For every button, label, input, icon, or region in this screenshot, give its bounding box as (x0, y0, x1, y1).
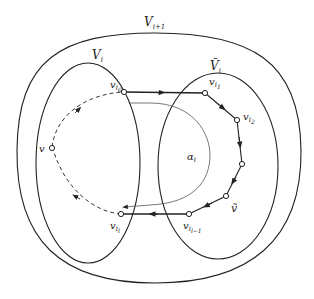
vertex-v (49, 145, 54, 150)
label-vil: vil (110, 220, 120, 234)
label-vi0: vi0 (110, 79, 122, 93)
vertex-vil (118, 211, 123, 216)
dashed-arrow-lower (75, 196, 80, 199)
vertex-vtilde (223, 193, 228, 198)
vertex-vi3 (239, 161, 244, 166)
dashed-path-upper (52, 92, 122, 147)
label-v: v (39, 143, 45, 154)
label-region-right: Ṽi (210, 58, 221, 75)
edge-vi0-vi1 (124, 92, 205, 93)
label-vi1: vi1 (209, 76, 221, 90)
vertex-vi1 (202, 90, 207, 95)
diagram-canvas: Vi+1 Vi Ṽi vi0 vi1 vi2 ṽ vil−1 vil v αi (0, 0, 314, 299)
region-right-boundary (158, 73, 278, 259)
label-region-outer: Vi+1 (144, 15, 165, 31)
label-vil1: vil−1 (183, 220, 202, 234)
region-outer-boundary (17, 33, 301, 283)
edge-arrow-vtilde-vil1 (206, 203, 212, 206)
edge-arrow-vi2-vi3 (239, 137, 240, 145)
dashed-path-lower (53, 149, 121, 214)
vertex-vi0 (121, 89, 126, 94)
label-region-left: Vi (92, 48, 103, 64)
vertex-vil1 (186, 211, 191, 216)
label-vi2: vi2 (243, 111, 255, 125)
edge-arrow-vi1-vi2 (218, 104, 223, 108)
dashed-arrow-upper (75, 109, 79, 113)
label-alpha: αi (187, 151, 196, 164)
vertex-vi2 (234, 117, 239, 122)
label-vtilde: ṽ (231, 202, 238, 215)
edge-arrow-vi3-vtilde (233, 177, 236, 182)
